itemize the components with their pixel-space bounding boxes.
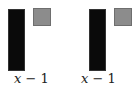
algebra-tile-group-1: x − 1 [0, 0, 69, 89]
algebra-tile-group-2: x − 1 [81, 0, 138, 89]
label-expression: − 1 [21, 71, 48, 86]
label-expression: − 1 [88, 71, 115, 86]
unit-tile-square [33, 8, 51, 26]
x-tile-bar [8, 9, 25, 71]
tile-label: x − 1 [81, 71, 116, 86]
unit-tile-square [114, 8, 132, 26]
tile-label: x − 1 [14, 71, 49, 86]
x-tile-bar [89, 9, 106, 71]
